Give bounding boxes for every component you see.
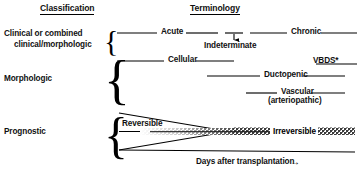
irreversible-band-swatch [318,128,355,136]
axis-baseline [119,150,355,152]
figure-root: Classification Terminology Clinical or c… [0,0,361,172]
figure-linework [0,0,361,172]
